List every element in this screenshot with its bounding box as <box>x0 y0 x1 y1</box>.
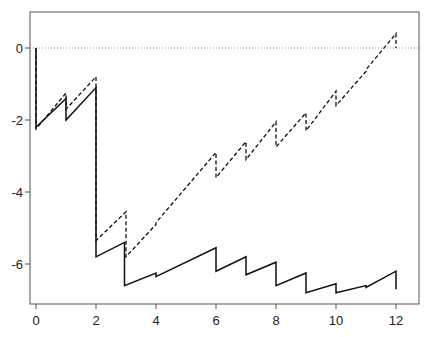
y-tick-label: 0 <box>16 41 23 56</box>
x-tick-label: 0 <box>32 313 39 328</box>
y-axis: 0-2-4-6 <box>11 41 30 272</box>
x-axis: 024681012 <box>32 304 403 328</box>
y-tick-label: -6 <box>11 257 23 272</box>
y-tick-label: -2 <box>11 113 23 128</box>
step-line-chart: 024681012 0-2-4-6 <box>0 0 431 337</box>
plot-frame <box>30 12 419 304</box>
x-tick-label: 2 <box>92 313 99 328</box>
x-tick-label: 12 <box>389 313 403 328</box>
x-tick-label: 4 <box>152 313 159 328</box>
series-dashed-line <box>36 34 396 257</box>
x-tick-label: 10 <box>329 313 343 328</box>
x-tick-label: 6 <box>212 313 219 328</box>
x-tick-label: 8 <box>272 313 279 328</box>
y-tick-label: -4 <box>11 185 23 200</box>
